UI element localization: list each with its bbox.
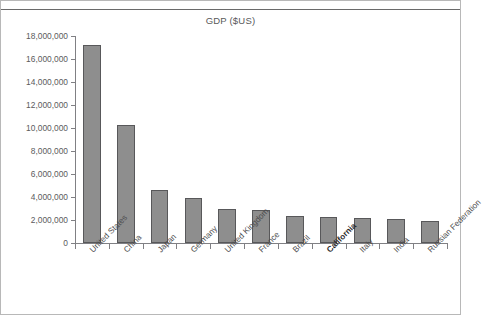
x-axis-tick bbox=[447, 244, 448, 249]
x-axis-tick bbox=[176, 244, 177, 249]
y-axis-tick-label: 4,000,000 bbox=[31, 192, 68, 202]
y-axis-tick-label: 2,000,000 bbox=[31, 215, 68, 225]
y-axis-tick bbox=[71, 59, 75, 60]
y-axis-tick bbox=[71, 151, 75, 152]
figure-header-strip bbox=[1, 1, 460, 9]
x-axis-tick bbox=[379, 244, 380, 249]
x-axis-tick bbox=[143, 244, 144, 249]
header-divider-rule bbox=[1, 9, 460, 10]
y-axis-tick bbox=[71, 105, 75, 106]
bar[interactable] bbox=[151, 190, 169, 243]
y-axis-tick-label: 14,000,000 bbox=[26, 77, 68, 87]
x-axis-tick bbox=[75, 244, 76, 249]
x-axis-tick bbox=[109, 244, 110, 249]
y-axis-tick bbox=[71, 197, 75, 198]
x-axis-tick bbox=[312, 244, 313, 249]
y-axis-tick-label: 0 bbox=[63, 238, 68, 248]
y-axis-tick bbox=[71, 36, 75, 37]
x-axis-tick bbox=[346, 244, 347, 249]
x-axis-tick bbox=[210, 244, 211, 249]
y-axis-tick-label: 6,000,000 bbox=[31, 169, 68, 179]
x-axis-tick bbox=[278, 244, 279, 249]
bar[interactable] bbox=[83, 45, 101, 243]
y-axis-tick bbox=[71, 174, 75, 175]
y-axis-tick-label: 8,000,000 bbox=[31, 146, 68, 156]
y-axis-tick-label: 16,000,000 bbox=[26, 54, 68, 64]
y-axis-tick-label: 10,000,000 bbox=[26, 123, 68, 133]
y-axis-tick bbox=[71, 82, 75, 83]
chart-title: GDP ($US) bbox=[1, 15, 460, 26]
x-axis-tick bbox=[413, 244, 414, 249]
y-axis-tick-label: 18,000,000 bbox=[26, 31, 68, 41]
x-axis-tick bbox=[244, 244, 245, 249]
y-axis-tick bbox=[71, 128, 75, 129]
y-axis-tick bbox=[71, 220, 75, 221]
y-axis-tick-label: 12,000,000 bbox=[26, 100, 68, 110]
